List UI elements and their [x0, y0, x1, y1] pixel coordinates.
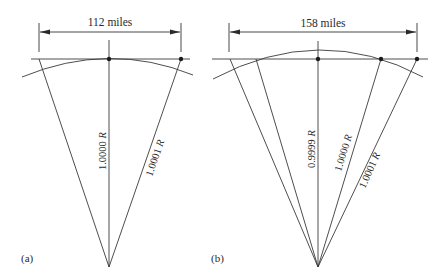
dimension-label: 158 miles [300, 17, 346, 29]
radius-label-center: 1.0000 R [97, 132, 108, 171]
horizon-point [179, 57, 183, 61]
radius-label-outer-right: 1.0001 R [357, 150, 383, 190]
panel-caption-a: (a) [21, 252, 34, 265]
radius-right-line [109, 59, 181, 267]
earth-curvature-diagram: 112 miles 1.0000 R 1.0001 R (a) 158 mile… [0, 0, 441, 278]
earth-surface-arc [22, 58, 193, 77]
center-point [316, 57, 320, 61]
horizon-point [415, 57, 419, 61]
panel-b: 158 miles 0.9999 R 1.0000 R 1.0001 R (b) [211, 17, 428, 267]
radius-label-inner-right: 1.0000 R [332, 133, 354, 173]
dimension-112-miles: 112 miles [39, 16, 181, 52]
dimension-label: 112 miles [88, 16, 133, 28]
panel-caption-b: (b) [211, 252, 224, 265]
tangent-point [107, 57, 111, 61]
radius-label-center: 0.9999 R [306, 130, 317, 169]
arc-intersection-point [379, 57, 383, 61]
dimension-158-miles: 158 miles [229, 17, 417, 52]
radius-left-outer-line [230, 59, 318, 267]
panel-a: 112 miles 1.0000 R 1.0001 R (a) [21, 16, 193, 267]
